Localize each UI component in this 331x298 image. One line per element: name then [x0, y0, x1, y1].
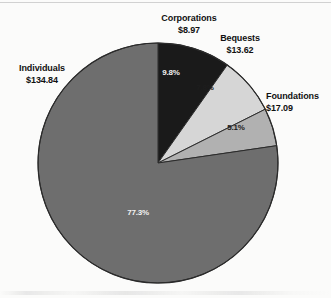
callout-individuals-label: Individuals	[19, 62, 65, 74]
callout-individuals: Individuals $134.84	[19, 62, 65, 86]
callout-corporations: Corporations $8.97	[161, 12, 216, 36]
scan-smudge-bottom	[0, 291, 331, 295]
callout-individuals-value: $134.84	[19, 74, 65, 86]
callout-corporations-label: Corporations	[161, 12, 216, 24]
callout-bequests: Bequests $13.62	[220, 32, 260, 56]
chart-plot-area: 9.8% 7.8% 5.1% 77.3% Corporations $8.97 …	[0, 0, 331, 298]
callout-bequests-value: $13.62	[220, 44, 260, 56]
pie-chart-svg	[0, 0, 331, 298]
callout-foundations: Foundations $17.09	[266, 90, 319, 114]
callout-foundations-label: Foundations	[266, 90, 319, 102]
callout-corporations-value: $8.97	[161, 24, 216, 36]
callout-bequests-label: Bequests	[220, 32, 260, 44]
pie-chart-figure: 9.8% 7.8% 5.1% 77.3% Corporations $8.97 …	[0, 0, 331, 298]
callout-foundations-value: $17.09	[266, 102, 319, 114]
